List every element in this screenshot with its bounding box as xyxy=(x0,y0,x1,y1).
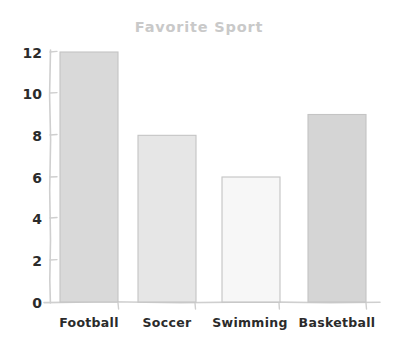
x-tick-labels: Football Soccer Swimming Basketball xyxy=(59,315,375,330)
x-tick-label-football: Football xyxy=(59,315,119,330)
chart-title: Favorite Sport xyxy=(135,19,263,35)
bar-chart-figure: Favorite Sport 12 10 8 6 4 2 0 xyxy=(0,0,399,350)
y-tick-label-10: 10 xyxy=(23,86,43,102)
bar-football[interactable] xyxy=(60,52,118,302)
y-tick-12 xyxy=(50,51,57,52)
chart-canvas: Favorite Sport 12 10 8 6 4 2 0 xyxy=(0,0,399,350)
y-tick-4 xyxy=(50,218,57,219)
x-tick-label-swimming: Swimming xyxy=(212,315,287,330)
bar-basketball[interactable] xyxy=(308,115,366,303)
y-tick-label-0: 0 xyxy=(32,295,42,311)
x-tick-label-basketball: Basketball xyxy=(299,315,376,330)
y-tick-label-4: 4 xyxy=(32,211,42,227)
x-tick-label-soccer: Soccer xyxy=(143,315,192,330)
x-tick-2 xyxy=(195,303,196,309)
y-tick-label-12: 12 xyxy=(23,45,42,61)
y-tick-label-8: 8 xyxy=(32,128,42,144)
y-tick-label-6: 6 xyxy=(32,170,42,186)
y-tick-label-2: 2 xyxy=(32,253,42,269)
y-tick-8 xyxy=(50,135,57,136)
x-tick-4 xyxy=(366,303,367,309)
bar-soccer[interactable] xyxy=(138,135,196,302)
x-tick-1 xyxy=(118,303,119,309)
bar-swimming[interactable] xyxy=(222,177,280,302)
